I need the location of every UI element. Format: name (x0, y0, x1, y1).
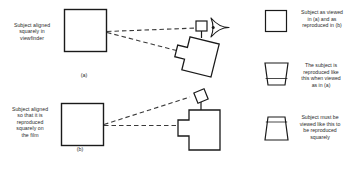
sight-line-a-lens (107, 33, 186, 54)
legend-item-2-text: Subject must be viewed like this to be r… (286, 114, 354, 140)
panel-b-label: (b) (62, 146, 98, 152)
legend-item-0-text: Subject as viewed in (a) and as reproduc… (290, 9, 354, 29)
legend-shape-trapezoid-narrow-bottom (265, 63, 288, 85)
legend-shape-square (266, 11, 287, 32)
subject-square-b (62, 104, 104, 146)
sight-line-a-viewfinder (107, 28, 197, 32)
camera-body-b (178, 110, 220, 150)
sight-line-b-viewfinder (104, 97, 190, 125)
eye-icon (211, 18, 229, 37)
subject-square-a (65, 10, 107, 52)
panel-a-label: (a) (66, 72, 102, 78)
panel-a-group (65, 10, 230, 78)
panel-a-caption: Subject aligned squarely in viewfinder (4, 22, 60, 41)
figure-canvas: Subject aligned squarely in viewfinder (… (0, 0, 356, 170)
legend-shapes-group (265, 11, 288, 141)
panel-b-group (62, 89, 221, 150)
legend-shape-trapezoid-wide-bottom (265, 117, 288, 140)
viewfinder-box-a (196, 21, 207, 31)
panel-b-caption: Subject aligned so that it is reproduced… (2, 106, 58, 138)
camera-body-a (172, 34, 219, 77)
legend-item-1-text: The subject is reproduced like this when… (288, 62, 354, 88)
viewfinder-box-b (194, 89, 208, 103)
